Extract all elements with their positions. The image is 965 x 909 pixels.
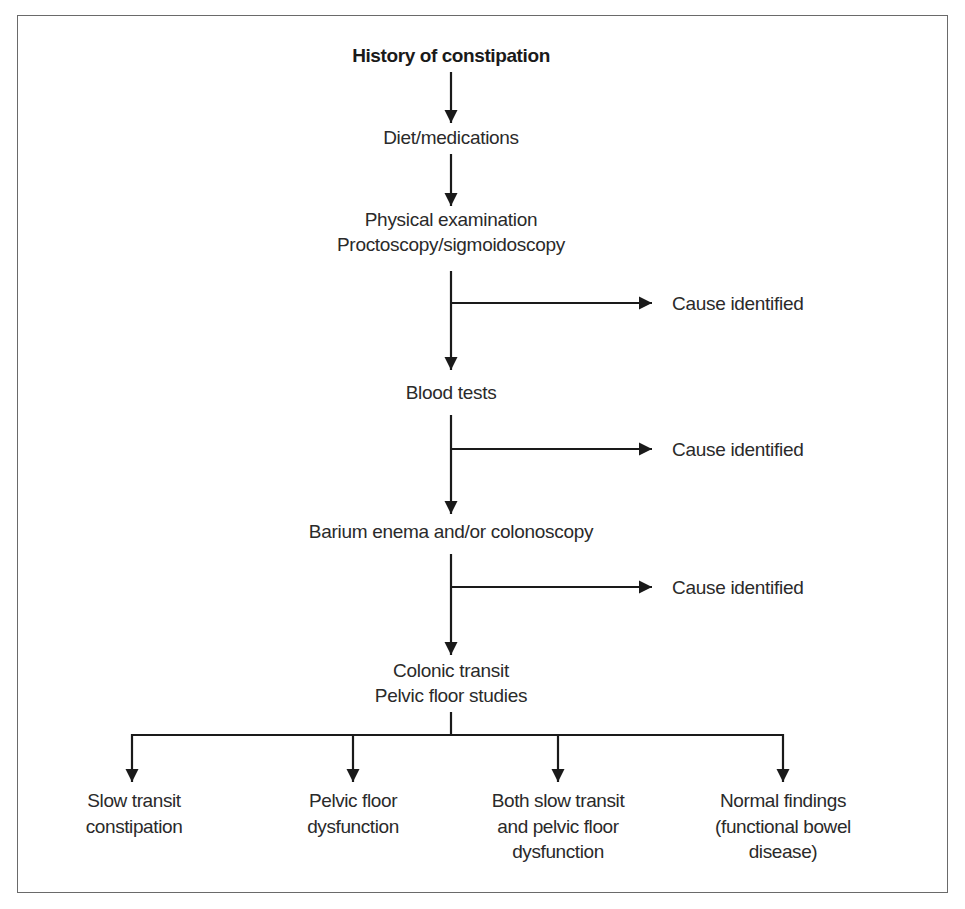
node-barium-label: Barium enema and/or colonoscopy bbox=[309, 519, 593, 544]
outcome-both: Both slow transit and pelvic floor dysfu… bbox=[492, 788, 625, 865]
outcome-both-line1: Both slow transit bbox=[492, 788, 625, 814]
node-history-label: History of constipation bbox=[352, 43, 550, 68]
node-blood-label: Blood tests bbox=[406, 380, 497, 405]
outcome-normal-line2: (functional bowel bbox=[715, 814, 851, 840]
outcome-slow-line1: Slow transit bbox=[86, 788, 183, 814]
side-exit-exam: Cause identified bbox=[672, 291, 803, 316]
node-transit-line1: Colonic transit bbox=[375, 658, 527, 683]
side-exit-barium: Cause identified bbox=[672, 575, 803, 600]
node-exam-line1: Physical examination bbox=[337, 207, 565, 232]
node-transit: Colonic transit Pelvic floor studies bbox=[375, 658, 527, 708]
outcome-pelvic-line2: dysfunction bbox=[307, 814, 399, 840]
node-diet: Diet/medications bbox=[383, 125, 519, 150]
outcome-normal-line3: disease) bbox=[715, 839, 851, 865]
node-history: History of constipation bbox=[352, 43, 550, 68]
node-exam: Physical examination Proctoscopy/sigmoid… bbox=[337, 207, 565, 257]
node-diet-label: Diet/medications bbox=[383, 125, 519, 150]
outcome-normal-line1: Normal findings bbox=[715, 788, 851, 814]
node-exam-line2: Proctoscopy/sigmoidoscopy bbox=[337, 232, 565, 257]
side-exit-blood: Cause identified bbox=[672, 437, 803, 462]
outcome-slow-line2: constipation bbox=[86, 814, 183, 840]
node-transit-line2: Pelvic floor studies bbox=[375, 683, 527, 708]
outcome-normal: Normal findings (functional bowel diseas… bbox=[715, 788, 851, 865]
outcome-both-line3: dysfunction bbox=[492, 839, 625, 865]
node-blood: Blood tests bbox=[406, 380, 497, 405]
outcome-pelvic-floor: Pelvic floor dysfunction bbox=[307, 788, 399, 839]
outcome-slow-transit: Slow transit constipation bbox=[86, 788, 183, 839]
outcome-both-line2: and pelvic floor bbox=[492, 814, 625, 840]
outcome-pelvic-line1: Pelvic floor bbox=[307, 788, 399, 814]
node-barium: Barium enema and/or colonoscopy bbox=[309, 519, 593, 544]
